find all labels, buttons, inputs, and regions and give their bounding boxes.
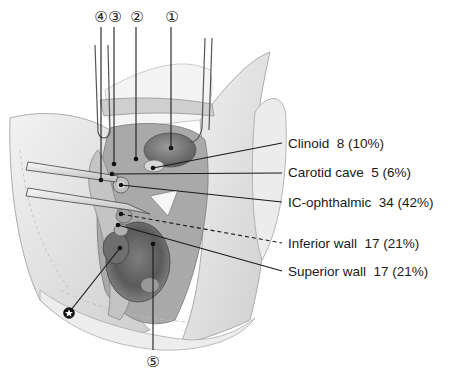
surgical-field <box>10 52 287 350</box>
label-superior-wall: Superior wall 17 (21%) <box>288 264 428 279</box>
label-ic-ophthalmic: IC-ophthalmic 34 (42%) <box>288 195 434 210</box>
tumor-highlight <box>141 278 159 292</box>
marker-4: ④ <box>94 8 107 26</box>
right-lobe <box>252 99 286 260</box>
marker-5: ⑤ <box>146 353 159 371</box>
star-marker-icon <box>63 307 75 319</box>
marker-3: ③ <box>108 8 121 26</box>
label-clinoid: Clinoid 8 (10%) <box>288 136 384 151</box>
leader-dot-star <box>118 246 123 251</box>
dot-carotid-cave <box>110 172 115 177</box>
label-carotid-cave: Carotid cave 5 (6%) <box>288 165 411 180</box>
leader-dot-2 <box>134 157 139 162</box>
leader-dot-1 <box>169 146 174 151</box>
dot-superior-wall <box>116 223 121 228</box>
tumor-lobe <box>103 232 129 264</box>
leader-dot-3 <box>112 162 117 167</box>
dot-ic-ophthalmic <box>119 183 124 188</box>
anatomical-illustration: ④ ③ ② ① ⑤ Clinoid 8 (10%) Carotid cave 5… <box>0 0 452 381</box>
dot-inferior-wall <box>119 212 124 217</box>
dot-clinoid <box>151 166 156 171</box>
marker-1: ① <box>165 8 178 26</box>
label-inferior-wall: Inferior wall 17 (21%) <box>288 236 419 251</box>
leader-dot-4 <box>99 178 104 183</box>
leader-dot-5 <box>151 242 156 247</box>
marker-2: ② <box>130 8 143 26</box>
upper-tissue <box>105 64 212 130</box>
